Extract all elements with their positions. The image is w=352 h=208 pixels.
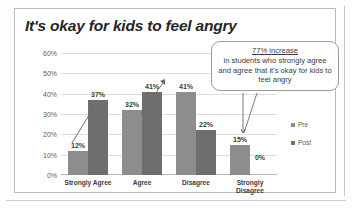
- legend-item-pre[interactable]: Pre: [291, 121, 311, 128]
- slide-canvas: It's okay for kids to feel angry 60% 50%…: [0, 0, 352, 208]
- legend-swatch-icon: [291, 123, 295, 127]
- bar-value-label: 22%: [199, 121, 213, 128]
- x-axis-label-line2: Disagree: [223, 187, 277, 195]
- y-axis-tick: 0%: [47, 172, 57, 179]
- callout-headline: 77% increase: [217, 46, 333, 55]
- callout-body: in students who strongly agree and agree…: [217, 56, 333, 85]
- legend-label: Pre: [298, 121, 308, 128]
- x-axis-label-line1: Disagree: [169, 179, 223, 187]
- bar-post[interactable]: 22%: [196, 130, 216, 175]
- bar-value-label: 41%: [179, 83, 193, 90]
- bar-post[interactable]: 41%: [142, 92, 162, 175]
- y-axis-tick: 50%: [43, 70, 57, 77]
- bar-value-label: 12%: [71, 142, 85, 149]
- bar-value-label: 15%: [233, 136, 247, 143]
- right-side-panel: [344, 6, 352, 196]
- y-axis-tick: 40%: [43, 90, 57, 97]
- bar-pre[interactable]: 32%: [122, 110, 142, 175]
- y-axis-tick: 60%: [43, 50, 57, 57]
- y-axis-tick: 20%: [43, 131, 57, 138]
- x-axis-label-disagree: Disagree: [169, 179, 223, 195]
- x-axis-label-line1: Strongly: [223, 179, 277, 187]
- bar-value-label: 37%: [91, 91, 105, 98]
- bar-pre[interactable]: 12%: [68, 151, 88, 175]
- bar-group-strongly-agree: 12% 37%: [61, 53, 115, 175]
- bottom-divider: [6, 200, 346, 201]
- x-axis-label-strongly-disagree: Strongly Disagree: [223, 179, 277, 195]
- legend-label: Post: [298, 139, 311, 146]
- x-axis-labels: Strongly Agree Agree Disagree Strongly D…: [61, 179, 277, 195]
- bar-pre[interactable]: 41%: [176, 92, 196, 175]
- x-axis-label-strongly-agree: Strongly Agree: [61, 179, 115, 195]
- x-axis-label-line1: Strongly Agree: [61, 179, 115, 187]
- x-axis-label-agree: Agree: [115, 179, 169, 195]
- bar-post[interactable]: 0%: [250, 162, 270, 175]
- bar-post[interactable]: 37%: [88, 100, 108, 175]
- bar-value-label: 0%: [255, 154, 265, 161]
- bar-group-agree: 32% 41%: [115, 53, 169, 175]
- y-axis-tick: 30%: [43, 111, 57, 118]
- y-axis-tick: 10%: [43, 151, 57, 158]
- bar-value-label: 32%: [125, 101, 139, 108]
- bar-value-label: 41%: [145, 83, 159, 90]
- legend-swatch-icon: [291, 141, 295, 145]
- x-axis-label-line1: Agree: [115, 179, 169, 187]
- bar-pre[interactable]: 15%: [230, 145, 250, 176]
- legend-item-post[interactable]: Post: [291, 139, 311, 146]
- chart-area: 60% 50% 40% 30% 20% 10% 0% 12%: [15, 9, 337, 194]
- slide-card: It's okay for kids to feel angry 60% 50%…: [14, 8, 336, 193]
- chart-legend: Pre Post: [291, 121, 311, 146]
- callout-box: 77% increase in students who strongly ag…: [211, 41, 339, 91]
